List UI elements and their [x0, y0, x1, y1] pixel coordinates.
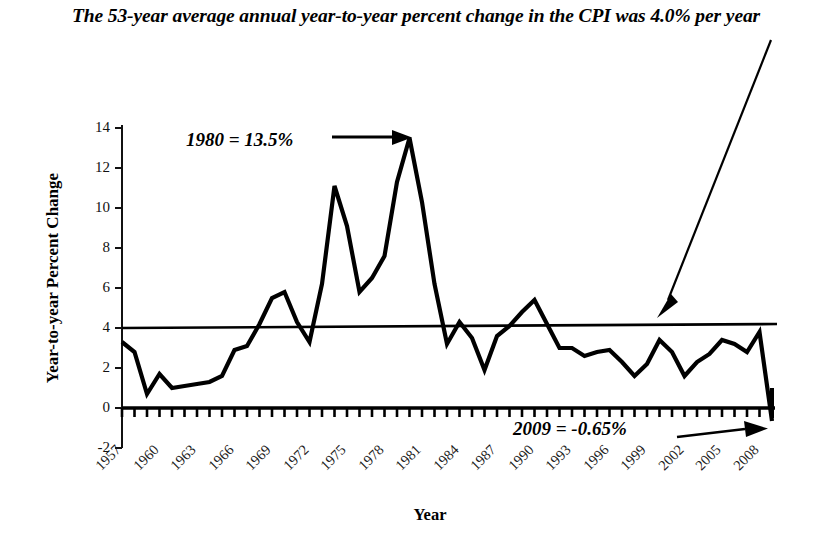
y-axis-tick-label: 8: [76, 239, 110, 256]
y-axis-tick-label: 4: [76, 319, 110, 336]
annotation-1980-peak: 1980 = 13.5%: [186, 129, 293, 151]
cpi-data-line: [122, 138, 772, 421]
y-axis-tick-label: 12: [76, 159, 110, 176]
annotation-2009-trough: 2009 = -0.65%: [513, 418, 627, 440]
average-reference-line: [122, 324, 777, 328]
y-axis-tick-label: 14: [76, 119, 110, 136]
annotation-arrow-1980: [332, 130, 412, 145]
y-axis-title: Year-to-year Percent Change: [43, 163, 63, 393]
x-axis-title: Year: [330, 505, 530, 525]
y-axis: [115, 125, 122, 448]
y-axis-tick-label: 6: [76, 279, 110, 296]
y-axis-tick-label: 0: [76, 399, 110, 416]
y-axis-tick-label: 10: [76, 199, 110, 216]
annotation-arrow-2009: [677, 421, 768, 437]
y-axis-tick-label: 2: [76, 359, 110, 376]
cpi-chart-figure: The 53-year average annual year-to-year …: [0, 0, 828, 548]
annotation-arrow-average: [657, 40, 771, 318]
